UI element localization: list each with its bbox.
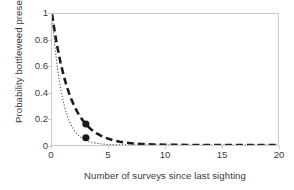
x-tick-mark <box>108 146 109 149</box>
x-tick-mark <box>222 146 223 149</box>
y-axis-title: Probability bottleweed present <box>13 0 24 128</box>
x-tick-mark <box>51 146 52 149</box>
x-tick-label: 20 <box>264 150 294 160</box>
chart-container: 00.20.40.60.81 05101520 Probability bott… <box>0 0 294 190</box>
x-tick-label: 15 <box>207 150 237 160</box>
x-tick-label: 0 <box>36 150 66 160</box>
x-axis-tick-labels: 05101520 <box>0 0 294 190</box>
x-tick-mark <box>165 146 166 149</box>
x-tick-label: 10 <box>150 150 180 160</box>
x-tick-label: 5 <box>93 150 123 160</box>
x-tick-mark <box>279 146 280 149</box>
x-axis-title: Number of surveys since last sighting <box>51 170 279 181</box>
